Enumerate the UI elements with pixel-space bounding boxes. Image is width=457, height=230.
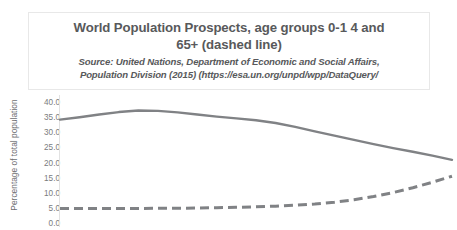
plot-area: Percentage of total population 40.035.03… [0, 95, 457, 230]
chart-source-line-2: Population Division (2015) (https://esa.… [80, 69, 378, 80]
line-series-age-65-plus [60, 176, 452, 208]
chart-title: World Population Prospects, age groups 0… [49, 20, 409, 53]
chart-source: Source: United Nations, Department of Ec… [30, 55, 428, 81]
chart-canvas [0, 95, 457, 230]
chart-screenshot: World Population Prospects, age groups 0… [0, 0, 457, 230]
chart-source-line-1: Source: United Nations, Department of Ec… [79, 56, 380, 67]
chart-title-line-1: World Population Prospects, age groups 0… [74, 20, 385, 35]
line-series-age-0-14 [60, 111, 452, 160]
chart-title-line-2: 65+ (dashed line) [176, 37, 282, 52]
chart-title-box: World Population Prospects, age groups 0… [28, 12, 430, 90]
